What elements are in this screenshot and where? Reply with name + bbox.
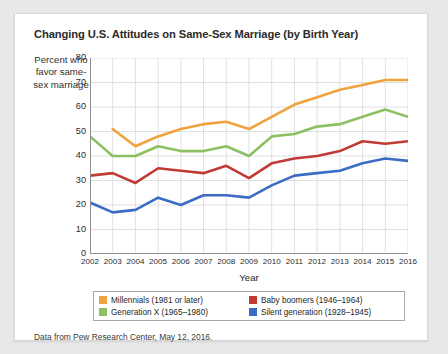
legend-label: Generation X (1965–1980) [111,308,208,317]
x-tick-label: 2016 [399,257,417,266]
x-tick-label: 2010 [263,257,281,266]
legend-label: Silent generation (1928–1945) [261,308,371,317]
y-tick-label: 10 [56,224,86,234]
y-tick-label: 50 [56,126,86,136]
x-tick-label: 2002 [81,257,99,266]
chart-card: Changing U.S. Attitudes on Same-Sex Marr… [14,13,428,341]
x-tick-label: 2004 [126,257,144,266]
legend-item-generation-x: Generation X (1965–1980) [99,306,249,318]
chart-legend: Millennials (1981 or later) Baby boomers… [93,291,405,321]
x-tick-label: 2011 [286,257,303,266]
y-tick-label: 30 [56,175,86,185]
y-tick-label: 70 [56,77,86,87]
screenshot-root: Changing U.S. Attitudes on Same-Sex Marr… [0,0,448,354]
legend-swatch-icon [99,308,107,316]
x-tick-label: 2007 [195,257,213,266]
x-tick-label: 2005 [149,257,167,266]
page-title: Changing U.S. Attitudes on Same-Sex Marr… [34,28,358,40]
legend-label: Baby boomers (1946–1964) [261,296,363,305]
x-tick-label: 2014 [354,257,372,266]
legend-item-baby-boomers: Baby boomers (1946–1964) [249,294,399,306]
plot-frame [90,58,408,254]
source-note: Data from Pew Research Center, May 12, 2… [34,332,212,342]
x-tick-label: 2015 [376,257,394,266]
legend-item-millennials: Millennials (1981 or later) [99,294,249,306]
y-tick-label: 40 [56,150,86,160]
y-tick-label: 80 [56,52,86,62]
x-axis-ticks: 2002200320042005200620072008200920102011… [90,257,408,271]
x-tick-label: 2012 [308,257,326,266]
x-tick-label: 2009 [240,257,258,266]
plot-area [90,58,408,254]
legend-label: Millennials (1981 or later) [111,296,203,305]
x-tick-label: 2008 [217,257,235,266]
x-axis-title: Year [90,272,408,283]
legend-swatch-icon [249,308,257,316]
y-tick-label: 60 [56,101,86,111]
x-tick-label: 2003 [104,257,122,266]
legend-swatch-icon [249,296,257,304]
y-axis-ticks: 01020304050607080 [55,58,86,254]
legend-swatch-icon [99,296,107,304]
x-tick-label: 2006 [172,257,190,266]
legend-item-silent-generation: Silent generation (1928–1945) [249,306,399,318]
x-tick-label: 2013 [331,257,349,266]
y-tick-label: 20 [56,199,86,209]
